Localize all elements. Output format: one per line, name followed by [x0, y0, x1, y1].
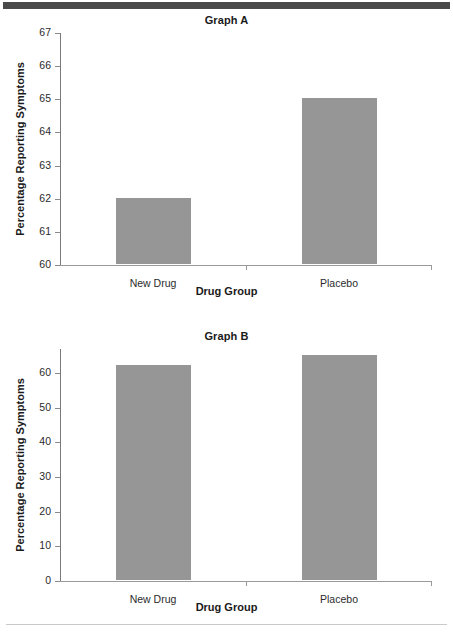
y-tick-label-b-60: 60 — [39, 366, 51, 378]
chart-title-graph-a: Graph A — [0, 14, 453, 26]
x-tick-b-2 — [431, 581, 432, 586]
y-tick-b-0: 0 — [55, 581, 60, 582]
x-axis-title-graph-a: Drug Group — [0, 285, 453, 297]
y-axis-title-wrap-b: Percentage Reporting Symptoms — [20, 349, 34, 581]
x-axis-title-graph-b: Drug Group — [0, 601, 453, 613]
y-axis-title-wrap-a: Percentage Reporting Symptoms — [20, 33, 34, 265]
y-tick-a-60: 60 — [55, 265, 60, 266]
y-tick-b-50: 50 — [55, 408, 60, 409]
y-axis-title-graph-b: Percentage Reporting Symptoms — [14, 349, 28, 581]
y-tick-label-a-63: 63 — [39, 159, 51, 171]
chart-title-graph-b: Graph B — [0, 330, 453, 342]
plot-area-graph-b: 0102030405060New DrugPlacebo — [60, 349, 432, 581]
y-axis-line-b — [60, 349, 61, 582]
bar-b-placebo — [302, 355, 377, 580]
y-tick-a-66: 66 — [55, 66, 60, 67]
chart-figure-graph-b: Graph B Percentage Reporting Symptoms 01… — [0, 316, 453, 633]
y-tick-a-65: 65 — [55, 99, 60, 100]
y-tick-label-b-0: 0 — [45, 574, 51, 586]
y-tick-label-b-20: 20 — [39, 505, 51, 517]
y-tick-b-40: 40 — [55, 442, 60, 443]
y-tick-label-b-10: 10 — [39, 539, 51, 551]
y-axis-title-graph-a: Percentage Reporting Symptoms — [14, 33, 28, 265]
y-tick-a-63: 63 — [55, 166, 60, 167]
y-tick-b-30: 30 — [55, 477, 60, 478]
x-tick-a-2 — [431, 265, 432, 270]
bar-a-placebo — [302, 98, 377, 264]
chart-figure-graph-a: Graph A Percentage Reporting Symptoms 60… — [0, 0, 453, 310]
y-tick-a-67: 67 — [55, 33, 60, 34]
y-tick-b-10: 10 — [55, 546, 60, 547]
y-tick-label-b-50: 50 — [39, 401, 51, 413]
y-tick-label-a-65: 65 — [39, 92, 51, 104]
y-tick-label-b-40: 40 — [39, 435, 51, 447]
y-tick-label-a-60: 60 — [39, 258, 51, 270]
x-tick-b-1 — [246, 581, 247, 586]
y-axis-line-a — [60, 33, 61, 266]
y-tick-a-61: 61 — [55, 232, 60, 233]
y-tick-label-a-67: 67 — [39, 26, 51, 38]
y-tick-b-60: 60 — [55, 373, 60, 374]
y-tick-label-a-64: 64 — [39, 125, 51, 137]
y-tick-label-a-62: 62 — [39, 192, 51, 204]
y-tick-label-b-30: 30 — [39, 470, 51, 482]
plot-area-graph-a: 6061626364656667New DrugPlacebo — [60, 33, 432, 265]
y-tick-a-64: 64 — [55, 132, 60, 133]
bar-a-new-drug — [116, 198, 191, 264]
y-tick-label-a-66: 66 — [39, 59, 51, 71]
y-tick-a-62: 62 — [55, 199, 60, 200]
y-tick-label-a-61: 61 — [39, 225, 51, 237]
x-tick-a-1 — [246, 265, 247, 270]
bar-b-new-drug — [116, 365, 191, 580]
y-tick-b-20: 20 — [55, 512, 60, 513]
